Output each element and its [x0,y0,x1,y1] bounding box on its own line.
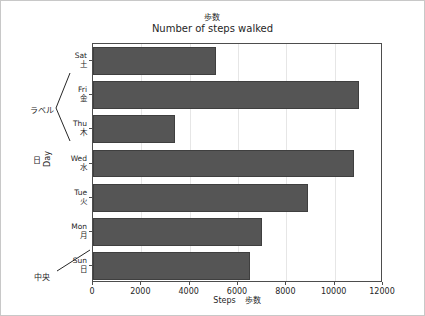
x-tick-mark [285,282,286,285]
y-tick-label-jp: 火 [60,197,87,206]
x-axis-label-en: Steps [213,296,235,305]
y-tick-label-en: Thu [60,119,87,128]
y-tick-mark [89,128,92,129]
y-tick-label-jp: 日 [60,265,87,274]
x-tick-mark [140,282,141,285]
y-tick-mark [89,265,92,266]
y-tick-label-en: Fri [60,85,87,94]
bar-wed [93,150,354,178]
annotation-label-text: ラベル [30,104,54,115]
bar-sun [93,252,250,280]
x-axis-label-jp: 歩数 [245,296,261,305]
x-tick-mark [237,282,238,285]
y-tick-label-jp: 金 [60,94,87,103]
y-tick-label: Tue火 [60,188,87,206]
y-tick-mark [89,163,92,164]
bar-fri [93,81,359,109]
chart-title: Number of steps walked [1,23,424,34]
x-tick-mark [334,282,335,285]
y-tick-label-en: Tue [60,188,87,197]
x-tick-mark [92,282,93,285]
y-tick-label: Thu木 [60,119,87,137]
bar-sat [93,47,216,75]
y-tick-label: Wed水 [60,154,87,172]
annotation-center-text: 中央 [34,271,50,282]
y-tick-label: Sun日 [60,256,87,274]
bar-mon [93,218,262,246]
y-tick-label-en: Sat [60,51,87,60]
y-tick-label-jp: 月 [60,231,87,240]
y-tick-label-en: Sun [60,256,87,265]
figure-canvas: 歩数 Number of steps walked 02000400060008… [0,0,425,316]
y-tick-mark [89,60,92,61]
y-tick-label-jp: 土 [60,60,87,69]
plot-area [92,43,382,282]
y-tick-mark [89,94,92,95]
y-axis-label-en: Day [43,151,52,167]
y-axis-label-jp: 日 [33,154,41,165]
x-tick-mark [382,282,383,285]
y-tick-mark [89,231,92,232]
y-tick-label: Fri金 [60,85,87,103]
bar-tue [93,184,308,212]
y-tick-mark [89,197,92,198]
y-tick-label-en: Wed [60,154,87,163]
y-tick-label-jp: 水 [60,163,87,172]
y-tick-label: Mon月 [60,222,87,240]
x-tick-mark [189,282,190,285]
x-axis-label: Steps歩数 [92,294,382,305]
figure-suptitle: 歩数 [1,11,424,22]
bar-thu [93,115,175,143]
y-tick-label-en: Mon [60,222,87,231]
y-tick-label: Sat土 [60,51,87,69]
y-tick-label-jp: 木 [60,128,87,137]
